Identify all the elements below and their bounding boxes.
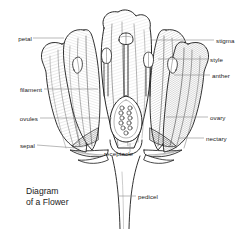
label-ovary: ovary: [210, 114, 225, 121]
label-nectary: nectary: [206, 135, 227, 142]
label-receptacle: receptacle: [104, 150, 133, 157]
label-ovules: ovules: [0, 115, 38, 122]
label-filament: filament: [0, 86, 42, 93]
label-petal: petal: [0, 35, 32, 42]
pedicel-shape: [112, 156, 140, 229]
diagram-title: Diagram of a Flower: [26, 186, 69, 207]
label-style: style: [210, 56, 223, 63]
diagram-title-line2: of a Flower: [26, 197, 69, 208]
stigma-shape: [119, 33, 133, 45]
label-sepal: sepal: [0, 142, 35, 149]
diagram-title-line1: Diagram: [26, 186, 69, 197]
anther-left: [73, 57, 83, 73]
label-anther: anther: [212, 72, 230, 79]
label-stigma: stigma: [216, 37, 235, 44]
leader-sepal: [37, 145, 76, 148]
flower-diagram-page: petal filament ovules sepal stigma style…: [0, 0, 248, 229]
label-pedicel: pedicel: [138, 193, 158, 200]
anther-right: [168, 57, 178, 73]
